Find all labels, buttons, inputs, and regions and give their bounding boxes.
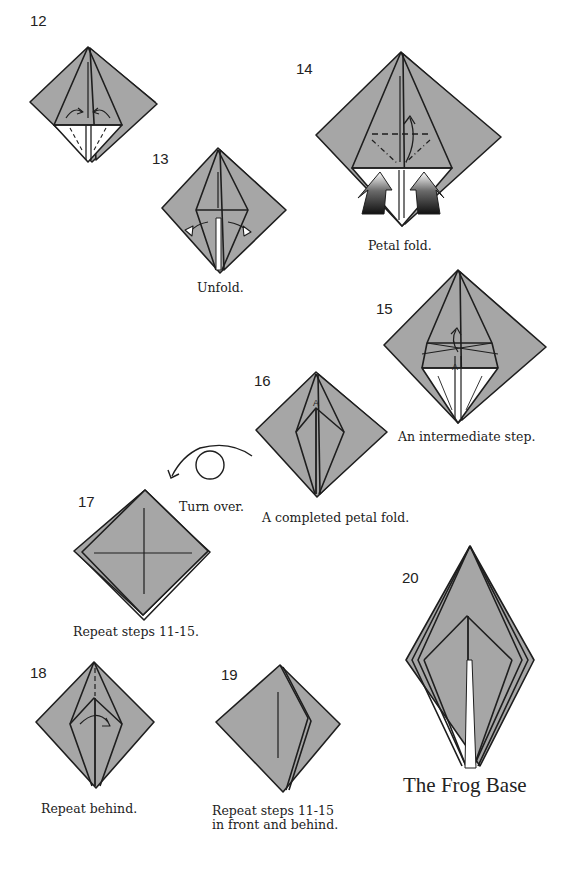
caption-step-19-line1: Repeat steps 11-15 [212, 804, 338, 818]
step-number-17: 17 [78, 493, 95, 510]
caption-step-18: Repeat behind. [41, 801, 137, 816]
step-number-19: 19 [221, 666, 238, 683]
step-19-diagram [216, 665, 340, 792]
step-number-14: 14 [296, 60, 313, 77]
caption-step-17: Repeat steps 11-15. [73, 624, 199, 639]
caption-step-19: Repeat steps 11-15 in front and behind. [212, 804, 338, 832]
origami-instruction-page: A A [0, 0, 575, 870]
step-15-diagram [384, 270, 546, 423]
frog-base-title: The Frog Base [403, 773, 527, 798]
step-14-diagram [316, 52, 501, 226]
turn-over-label: Turn over. [179, 499, 244, 514]
caption-step-14: Petal fold. [368, 238, 432, 253]
point-a-label-16: A [313, 398, 319, 408]
step-number-12: 12 [30, 12, 47, 29]
step-20-diagram [406, 546, 534, 768]
caption-step-16: A completed petal fold. [262, 510, 409, 525]
step-number-18: 18 [30, 664, 47, 681]
step-number-13: 13 [152, 150, 169, 167]
caption-step-15: An intermediate step. [398, 429, 535, 444]
caption-step-13: Unfold. [197, 280, 244, 295]
step-18-diagram [36, 662, 154, 788]
step-16-diagram [256, 372, 387, 497]
step-12-diagram [30, 47, 157, 162]
point-a-label-15: A [452, 362, 458, 372]
step-13-diagram [162, 148, 286, 273]
step-number-16: 16 [254, 372, 271, 389]
step-number-15: 15 [376, 300, 393, 317]
step-number-20: 20 [402, 569, 419, 586]
caption-step-19-line2: in front and behind. [212, 818, 338, 832]
turn-over-icon [168, 445, 252, 479]
